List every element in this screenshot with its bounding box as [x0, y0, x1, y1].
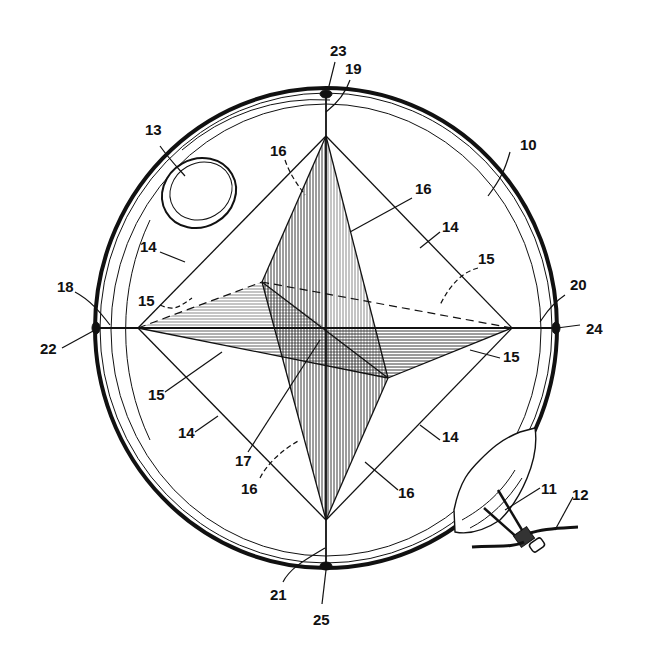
- ref-25: 25: [313, 611, 330, 628]
- ref-11: 11: [541, 480, 557, 497]
- ref-15: 15: [503, 348, 520, 365]
- ref-14: 14: [442, 428, 459, 445]
- ref-15: 15: [148, 386, 165, 403]
- ref-14: 14: [140, 238, 157, 255]
- ref-14: 14: [178, 424, 195, 441]
- ref-23: 23: [330, 42, 347, 59]
- ref-16: 16: [398, 484, 415, 501]
- ref-15: 15: [138, 292, 155, 309]
- ref-16: 16: [241, 480, 258, 497]
- ref-20: 20: [570, 276, 587, 293]
- patent-figure: 10 11 12 13 14 14 14 14 15 15 15 15 16 1…: [0, 0, 651, 653]
- ref-16: 16: [270, 142, 287, 159]
- ref-21: 21: [270, 586, 287, 603]
- ref-18: 18: [57, 278, 74, 295]
- appendix-assembly: [454, 428, 578, 553]
- ref-17: 17: [235, 452, 252, 469]
- ref-24: 24: [586, 320, 603, 337]
- ref-12: 12: [572, 486, 589, 503]
- ref-15: 15: [478, 250, 495, 267]
- ref-16: 16: [415, 180, 432, 197]
- ref-13: 13: [145, 121, 162, 138]
- ref-10: 10: [520, 136, 537, 153]
- ref-19: 19: [345, 60, 362, 77]
- ref-22: 22: [40, 340, 57, 357]
- ref-14: 14: [442, 218, 459, 235]
